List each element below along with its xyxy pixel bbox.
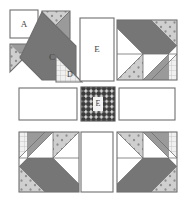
- sash-rect-right-shape: [119, 88, 175, 120]
- piece-c-label: C: [49, 52, 55, 62]
- sash-rect-bottom-shape: [81, 132, 113, 192]
- sash-rect-bottom: [81, 132, 113, 192]
- quilt-diagram-canvas: A B C D E: [0, 0, 183, 202]
- sash-rect-top-label: E: [94, 44, 100, 54]
- piece-d-label: D: [67, 70, 73, 79]
- center-square: E: [81, 87, 115, 121]
- assembled-block-bottom-right: [117, 132, 177, 192]
- center-square-label: E: [96, 99, 101, 108]
- sash-rect-left: [19, 88, 77, 120]
- quilt-block-diagram: A B C D E: [0, 0, 183, 202]
- sash-rect-left-shape: [19, 88, 77, 120]
- sash-rect-top: E: [80, 18, 114, 81]
- piece-a-label: A: [21, 19, 28, 29]
- assembled-block-top-right: [117, 20, 177, 80]
- assembled-block-bottom-left: [19, 132, 79, 192]
- sash-rect-right: [119, 88, 175, 120]
